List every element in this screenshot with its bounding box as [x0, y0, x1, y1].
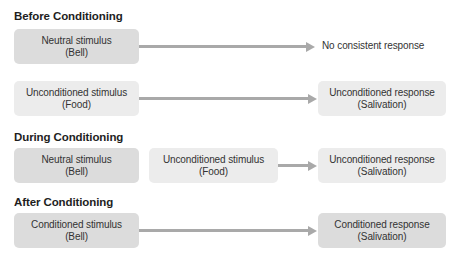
- box-label: Unconditioned stimulus: [26, 87, 127, 99]
- arrow-icon: [139, 229, 309, 232]
- section-heading-before: Before Conditioning: [14, 10, 123, 22]
- box-sublabel: (Salivation): [358, 99, 407, 111]
- box-label: Unconditioned stimulus: [163, 154, 264, 166]
- box-label: Unconditioned response: [329, 87, 435, 99]
- box-label: Unconditioned response: [329, 154, 435, 166]
- box-sublabel: (Bell): [65, 231, 88, 243]
- section-heading-after: After Conditioning: [14, 196, 113, 208]
- box-label: Conditioned stimulus: [31, 219, 122, 231]
- box-sublabel: (Bell): [65, 166, 88, 178]
- unconditioned-stimulus-box: Unconditioned stimulus (Food): [149, 148, 278, 183]
- unconditioned-stimulus-box: Unconditioned stimulus (Food): [14, 81, 139, 116]
- conditioned-stimulus-box: Conditioned stimulus (Bell): [14, 213, 139, 248]
- box-sublabel: (Bell): [65, 47, 88, 59]
- box-label: Conditioned response: [334, 219, 429, 231]
- conditioned-response-box: Conditioned response (Salivation): [318, 213, 446, 248]
- box-sublabel: (Salivation): [358, 166, 407, 178]
- box-sublabel: (Food): [62, 99, 91, 111]
- unconditioned-response-box: Unconditioned response (Salivation): [318, 148, 446, 183]
- arrow-icon: [278, 164, 309, 167]
- arrow-icon: [139, 97, 309, 100]
- box-sublabel: (Salivation): [358, 231, 407, 243]
- neutral-stimulus-box: Neutral stimulus (Bell): [14, 29, 139, 64]
- arrow-icon: [139, 45, 307, 48]
- box-label: Neutral stimulus: [41, 35, 111, 47]
- box-label: Neutral stimulus: [41, 154, 111, 166]
- box-sublabel: (Food): [199, 166, 228, 178]
- neutral-stimulus-box: Neutral stimulus (Bell): [14, 148, 139, 183]
- no-consistent-response-label: No consistent response: [322, 40, 424, 51]
- section-heading-during: During Conditioning: [14, 131, 123, 143]
- unconditioned-response-box: Unconditioned response (Salivation): [318, 81, 446, 116]
